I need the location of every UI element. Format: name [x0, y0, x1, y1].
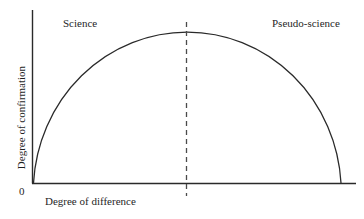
plot-area [0, 0, 364, 219]
figure-container: Science Pseudo-science 0 Degree of diffe… [0, 0, 364, 219]
confirmation-curve [34, 32, 342, 183]
axis-origin-label: 0 [19, 186, 25, 197]
region-label-science: Science [63, 18, 97, 29]
y-axis-title: Degree of confirmation [16, 53, 27, 183]
region-label-pseudo-science: Pseudo-science [272, 18, 340, 29]
x-axis-title: Degree of difference [45, 196, 136, 207]
